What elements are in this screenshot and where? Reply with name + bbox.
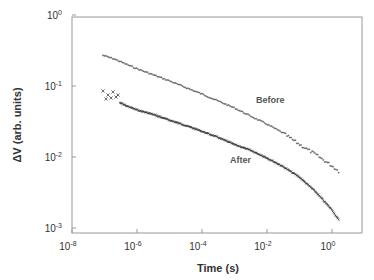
y-tick-label: 10-2	[45, 151, 62, 163]
y-tick-label: 10-3	[45, 222, 62, 234]
after-label: After	[230, 155, 251, 165]
before-label: Before	[256, 95, 285, 105]
x-tick-label: 10-8	[59, 240, 76, 252]
chart: 10-810-610-410-2100 10010-110-210-3 Befo…	[0, 0, 374, 280]
plot-area	[72, 17, 362, 233]
y-tick-label: 100	[47, 9, 62, 21]
y-axis-title: ΔV (arb. units)	[11, 87, 23, 162]
y-tick-label: 10-1	[45, 80, 62, 92]
x-tick-label: 10-4	[189, 240, 206, 252]
x-axis-title: Time (s)	[197, 262, 239, 274]
x-tick-labels: 10-810-610-410-2100	[59, 240, 335, 252]
x-tick-label: 10-2	[254, 240, 271, 252]
x-tick-label: 10-6	[124, 240, 141, 252]
y-tick-labels: 10010-110-210-3	[45, 9, 62, 234]
x-tick-label: 100	[320, 240, 335, 252]
